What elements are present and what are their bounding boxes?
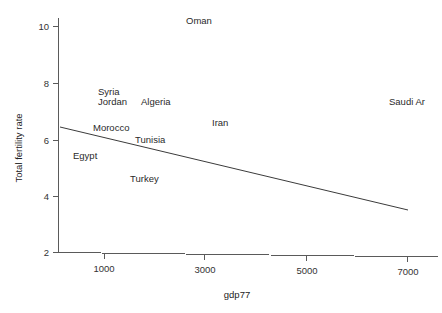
y-tick-label-8: 8: [44, 78, 49, 89]
x-tick-label-5000: 5000: [296, 265, 317, 276]
x-tick-label-7000: 7000: [397, 266, 418, 277]
data-point-label-turkey: Turkey: [130, 173, 159, 184]
y-axis-ticks: [53, 27, 59, 253]
y-axis-tick-labels: 10 8 6 4 2: [38, 21, 49, 258]
data-point-label-oman: Oman: [186, 15, 212, 26]
y-tick-label-6: 6: [44, 135, 49, 146]
x-tick-label-3000: 3000: [194, 264, 215, 275]
y-tick-label-4: 4: [44, 191, 49, 202]
scatter-plot-figure: 10 8 6 4 2 1000 3000 5000 7000 gdp77 Tot…: [0, 0, 442, 313]
y-axis-title: Total fertility rate: [13, 113, 24, 182]
x-axis-title: gdp77: [224, 289, 250, 300]
x-tick-label-1000: 1000: [93, 263, 114, 274]
y-tick-label-2: 2: [44, 247, 49, 258]
data-point-label-egypt: Egypt: [73, 150, 98, 161]
data-point-label-iran: Iran: [212, 117, 228, 128]
x-axis-ticks: [105, 253, 408, 262]
data-point-label-group: Oman Syria Jordan Algeria Saudi Ar Iran …: [73, 15, 425, 184]
data-point-label-tunisia: Tunisia: [135, 134, 166, 145]
x-axis-tick-labels: 1000 3000 5000 7000: [93, 263, 418, 277]
regression-fit-line: [60, 127, 408, 210]
data-point-label-saudi-arabia: Saudi Ar: [389, 96, 425, 107]
data-point-label-jordan: Jordan: [98, 96, 127, 107]
x-axis-line: [59, 253, 439, 258]
plot-canvas: 10 8 6 4 2 1000 3000 5000 7000 gdp77 Tot…: [0, 0, 442, 313]
data-point-label-morocco: Morocco: [93, 122, 129, 133]
data-point-label-algeria: Algeria: [141, 96, 171, 107]
y-tick-label-10: 10: [38, 21, 49, 32]
